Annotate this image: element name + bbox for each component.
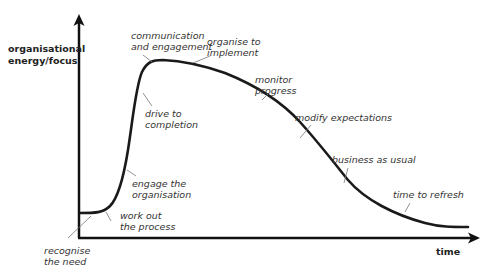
leader-engage — [127, 170, 136, 176]
leader-refresh — [405, 203, 410, 212]
y-axis-label: organisational energy/focus — [8, 43, 71, 66]
stage-label-drive-to-completion: drive to completion — [145, 108, 198, 130]
stage-label-monitor-progress: monitor progress — [255, 74, 296, 96]
stage-label-organise-to-implement: organise to implement — [207, 36, 261, 58]
stage-label-work-out-the-process: work out the process — [120, 210, 175, 232]
leader-work-out — [106, 212, 111, 221]
stage-label-modify-expectations: modify expectations — [295, 112, 392, 123]
stage-label-engage-the-organisation: engage the organisation — [132, 178, 191, 200]
stage-label-business-as-usual: business as usual — [332, 154, 416, 165]
leader-drive — [143, 93, 152, 106]
stage-label-time-to-refresh: time to refresh — [393, 189, 464, 200]
stage-label-recognise-the-need: recognise the need — [44, 245, 90, 267]
leader-communication — [143, 55, 152, 62]
x-axis-label: time — [436, 246, 456, 258]
stage-label-communication-and-engagement: communication and engagement — [131, 30, 212, 52]
